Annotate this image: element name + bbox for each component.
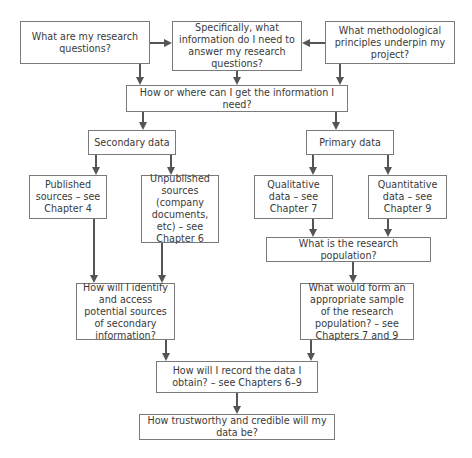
arrow-right-icon bbox=[164, 39, 172, 47]
arrow-down-icon bbox=[233, 406, 241, 414]
connector bbox=[93, 219, 95, 275]
connector bbox=[236, 393, 238, 406]
node-research-population: What is the research population? bbox=[266, 237, 431, 262]
connector bbox=[387, 155, 389, 167]
connector bbox=[387, 219, 389, 229]
node-label: What would form an appropriate sample of… bbox=[305, 282, 409, 342]
node-label: Published sources – see Chapter 4 bbox=[34, 179, 102, 215]
node-research-questions: What are my research questions? bbox=[20, 21, 150, 64]
node-label: Specifically, what information do I need… bbox=[177, 22, 297, 70]
arrow-down-icon bbox=[233, 77, 241, 85]
node-label: How will I identify and access potential… bbox=[81, 282, 170, 342]
node-appropriate-sample: What would form an appropriate sample of… bbox=[300, 283, 414, 340]
node-qualitative-data: Qualitative data – see Chapter 7 bbox=[254, 175, 333, 219]
arrow-down-icon bbox=[307, 353, 315, 361]
arrow-down-icon bbox=[162, 353, 170, 361]
arrow-down-icon bbox=[309, 229, 317, 237]
connector bbox=[95, 155, 97, 167]
connector bbox=[312, 219, 314, 229]
connector bbox=[150, 42, 164, 44]
node-record-data: How will I record the data I obtain? – s… bbox=[156, 361, 318, 393]
node-label: Quantitative data – see Chapter 9 bbox=[373, 179, 442, 215]
node-unpublished-sources: Unpublished sources (company documents, … bbox=[141, 175, 219, 243]
node-label: How will I record the data I obtain? – s… bbox=[161, 365, 313, 389]
arrow-down-icon bbox=[384, 229, 392, 237]
arrow-down-icon bbox=[384, 167, 392, 175]
node-published-sources: Published sources – see Chapter 4 bbox=[29, 175, 107, 219]
arrow-left-icon bbox=[302, 39, 310, 47]
node-label: Qualitative data – see Chapter 7 bbox=[259, 179, 328, 215]
arrow-down-icon bbox=[136, 77, 144, 85]
arrow-down-icon bbox=[139, 122, 147, 130]
node-label: What is the research population? bbox=[271, 238, 426, 262]
node-primary-data: Primary data bbox=[306, 130, 394, 155]
connector bbox=[161, 243, 163, 275]
node-label: Secondary data bbox=[94, 137, 169, 149]
node-how-where: How or where can I get the information I… bbox=[126, 85, 348, 112]
connector bbox=[312, 155, 314, 167]
arrow-down-icon bbox=[92, 167, 100, 175]
node-label: Primary data bbox=[319, 137, 381, 149]
node-label: How or where can I get the information I… bbox=[131, 87, 343, 111]
node-label: How trustworthy and credible will my dat… bbox=[144, 415, 330, 439]
connector bbox=[139, 64, 141, 77]
connector bbox=[310, 340, 312, 353]
node-quantitative-data: Quantitative data – see Chapter 9 bbox=[368, 175, 447, 219]
connector bbox=[339, 64, 341, 77]
node-specific-information: Specifically, what information do I need… bbox=[172, 21, 302, 71]
connector bbox=[310, 42, 325, 44]
connector bbox=[352, 262, 354, 275]
node-label: What are my research questions? bbox=[25, 31, 145, 55]
node-label: Unpublished sources (company documents, … bbox=[146, 173, 214, 245]
arrow-down-icon bbox=[332, 122, 340, 130]
connector bbox=[170, 155, 172, 167]
node-trustworthy: How trustworthy and credible will my dat… bbox=[139, 414, 335, 440]
connector bbox=[335, 112, 337, 122]
node-secondary-data: Secondary data bbox=[88, 130, 176, 155]
arrow-down-icon bbox=[309, 167, 317, 175]
node-label: What methodological principles underpin … bbox=[330, 25, 450, 61]
node-methodological-principles: What methodological principles underpin … bbox=[325, 21, 455, 64]
arrow-down-icon bbox=[336, 77, 344, 85]
node-identify-access: How will I identify and access potential… bbox=[76, 283, 175, 340]
connector bbox=[142, 112, 144, 122]
connector bbox=[165, 340, 167, 353]
